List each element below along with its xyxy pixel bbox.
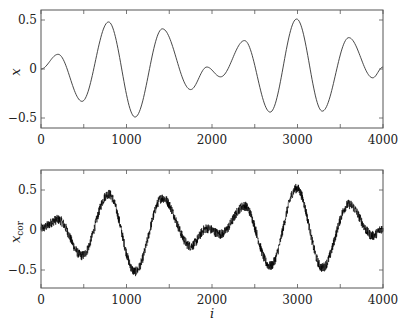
- x-tick-label: 4000: [368, 133, 399, 147]
- x-tick-label: 3000: [282, 133, 313, 147]
- y-axis-label-top: x: [8, 68, 23, 76]
- x-tick-label: 2000: [197, 133, 228, 147]
- y-tick-label: −0.5: [8, 263, 37, 277]
- x-tick-label: 2000: [197, 293, 228, 307]
- figure: 01000200030004000−0.500.5010002000300040…: [0, 0, 410, 325]
- axes-frame: [41, 10, 383, 128]
- x-tick-label: 3000: [282, 293, 313, 307]
- x-axis-label: i: [210, 306, 214, 321]
- data-line-noisy: [41, 184, 383, 276]
- x-tick-label: 1000: [111, 133, 142, 147]
- data-line: [41, 19, 383, 117]
- x-tick-label: 0: [37, 133, 45, 147]
- top-plot: 01000200030004000−0.500.5: [8, 10, 398, 147]
- y-tick-label: 0: [29, 62, 37, 76]
- y-tick-label: 0.5: [18, 13, 37, 27]
- x-tick-label: 0: [37, 293, 45, 307]
- y-axis-label-bottom: xcor: [8, 220, 25, 243]
- x-tick-label: 4000: [368, 293, 399, 307]
- y-tick-label: 0.5: [18, 183, 37, 197]
- y-tick-label: −0.5: [8, 111, 37, 125]
- x-tick-label: 1000: [111, 293, 142, 307]
- y-tick-label: 0: [29, 223, 37, 237]
- bottom-plot: 01000200030004000−0.500.5: [8, 170, 398, 307]
